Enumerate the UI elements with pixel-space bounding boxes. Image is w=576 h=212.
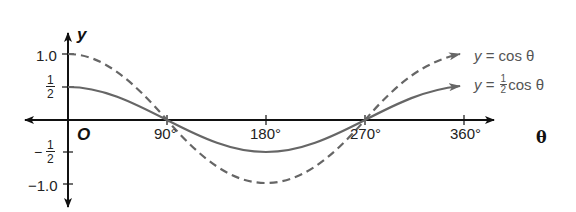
legend-cos: y = cos θ — [474, 47, 534, 64]
x-tick-270: 270° — [350, 126, 381, 141]
x-tick-90: 90° — [154, 126, 177, 141]
y-tick-half: 1 2 — [46, 74, 55, 100]
legend-half-cos: y = 1 2 cos θ — [474, 74, 544, 95]
y-tick-neg-half: 1 2 — [46, 139, 55, 165]
x-tick-180: 180° — [250, 126, 281, 141]
fraction-numerator: 1 — [46, 74, 55, 87]
origin-label: O — [77, 125, 90, 145]
legend-equation: = cos θ — [482, 47, 535, 64]
legend-var: y — [474, 76, 482, 93]
x-tick-360: 360° — [450, 126, 481, 141]
x-axis-label: θ — [536, 128, 547, 147]
y-axis-label: y — [77, 25, 86, 45]
fraction-denominator: 2 — [47, 87, 54, 100]
fraction-denominator: 2 — [47, 152, 54, 165]
y-tick-1: 1.0 — [36, 48, 57, 63]
legend-var: y — [474, 47, 482, 64]
fraction-denominator: 2 — [501, 85, 507, 95]
legend-equals: = — [482, 76, 499, 93]
y-tick-neg-half-sign: − — [34, 145, 42, 159]
y-tick-neg-1: −1.0 — [28, 178, 58, 193]
legend-fraction: 1 2 — [500, 74, 508, 95]
fraction-numerator: 1 — [46, 139, 55, 152]
legend-equation-rest: cos θ — [508, 76, 544, 93]
series-cos — [68, 54, 460, 183]
